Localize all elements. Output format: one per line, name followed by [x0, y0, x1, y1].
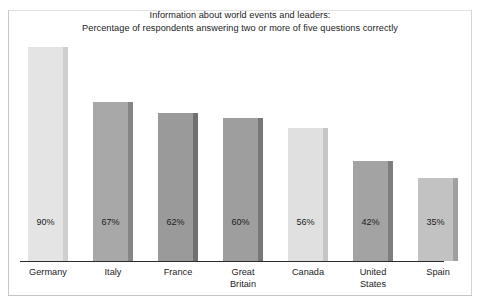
x-axis-label-line-1: United: [336, 266, 410, 278]
x-axis-label-canada: Canada: [271, 266, 345, 278]
bar-face: [28, 47, 63, 261]
bar-side-shadow: [258, 118, 263, 261]
x-axis-label-line-2: States: [336, 278, 410, 290]
bar-side-shadow: [388, 161, 393, 261]
x-axis-label-line-1: Great: [206, 266, 280, 278]
x-axis-label-line-1: Germany: [11, 266, 85, 278]
x-axis-label-great-britain: GreatBritain: [206, 266, 280, 290]
x-axis-line: [20, 261, 444, 262]
x-axis-label-line-1: Canada: [271, 266, 345, 278]
x-axis-label-line-1: France: [141, 266, 215, 278]
plot-area: 90%Germany67%Italy62%France60%GreatBrita…: [0, 0, 480, 306]
bar-value-label: 67%: [93, 217, 128, 227]
bar-side-shadow: [193, 113, 198, 261]
bar-spain[interactable]: 35%: [418, 178, 458, 261]
x-axis-label-united-states: UnitedStates: [336, 266, 410, 290]
bar-italy[interactable]: 67%: [93, 102, 133, 261]
x-axis-label-line-2: Britain: [206, 278, 280, 290]
bar-face: [223, 118, 258, 261]
bar-face: [288, 128, 323, 261]
bar-value-label: 62%: [158, 217, 193, 227]
bar-canada[interactable]: 56%: [288, 128, 328, 261]
bar-side-shadow: [453, 178, 458, 261]
bar-side-shadow: [128, 102, 133, 261]
bar-value-label: 56%: [288, 217, 323, 227]
bar-face: [353, 161, 388, 261]
bar-value-label: 60%: [223, 217, 258, 227]
bar-value-label: 42%: [353, 217, 388, 227]
bar-side-shadow: [323, 128, 328, 261]
bar-value-label: 90%: [28, 217, 63, 227]
bar-face: [158, 113, 193, 261]
bar-germany[interactable]: 90%: [28, 47, 68, 261]
x-axis-label-france: France: [141, 266, 215, 278]
x-axis-label-line-1: Spain: [401, 266, 475, 278]
bar-united-states[interactable]: 42%: [353, 161, 393, 261]
chart-page: Information about world events and leade…: [0, 0, 480, 306]
bar-france[interactable]: 62%: [158, 113, 198, 261]
x-axis-label-germany: Germany: [11, 266, 85, 278]
x-axis-label-line-1: Italy: [76, 266, 150, 278]
bar-face: [93, 102, 128, 261]
bar-value-label: 35%: [418, 217, 453, 227]
bar-side-shadow: [63, 47, 68, 261]
x-axis-label-spain: Spain: [401, 266, 475, 278]
x-axis-label-italy: Italy: [76, 266, 150, 278]
bar-great-britain[interactable]: 60%: [223, 118, 263, 261]
